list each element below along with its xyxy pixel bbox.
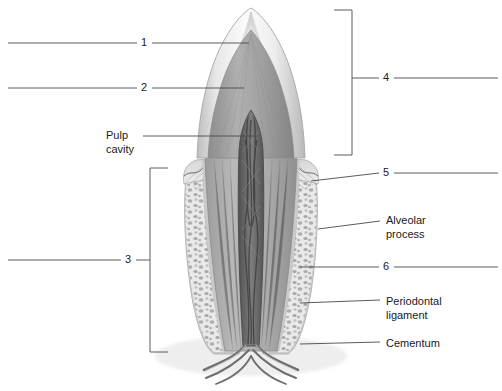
leader-5 <box>311 173 379 181</box>
label-pulp-cavity-line2[interactable]: cavity <box>106 143 134 156</box>
bracket-4 <box>334 10 352 155</box>
label-periodontal-ligament-line1[interactable]: Periodontal <box>386 295 442 308</box>
leader-alveolar-process <box>318 221 380 229</box>
label-pulp-cavity-line1[interactable]: Pulp <box>106 129 128 142</box>
label-alveolar-process-line2[interactable]: process <box>386 228 425 241</box>
figure-canvas: 1 2 3 4 5 6 Pulp cavity Alveolar process… <box>0 0 502 391</box>
bracket-3 <box>150 168 168 352</box>
label-number-2[interactable]: 2 <box>141 82 147 93</box>
pulp-cavity <box>238 110 264 346</box>
label-number-1[interactable]: 1 <box>141 37 147 48</box>
tooth-diagram <box>0 0 502 391</box>
tooth-illustration <box>155 8 347 384</box>
label-number-3[interactable]: 3 <box>125 254 131 265</box>
label-number-4[interactable]: 4 <box>383 72 389 83</box>
leader-periodontal-ligament <box>300 300 380 303</box>
label-periodontal-ligament-line2[interactable]: ligament <box>386 309 428 322</box>
label-alveolar-process-line1[interactable]: Alveolar <box>386 214 426 227</box>
label-number-6[interactable]: 6 <box>383 261 389 272</box>
label-cementum[interactable]: Cementum <box>386 337 440 350</box>
label-number-5[interactable]: 5 <box>383 167 389 178</box>
